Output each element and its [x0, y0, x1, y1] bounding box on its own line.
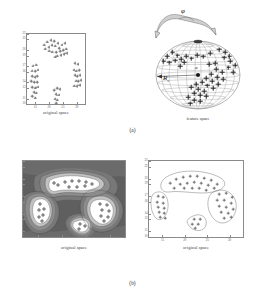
- data-point: [194, 227, 197, 230]
- data-point: [48, 49, 51, 52]
- data-point: [30, 69, 33, 72]
- sphere-marker: [192, 98, 197, 103]
- sphere-marker: [227, 54, 232, 59]
- x-tick-mark: [62, 235, 63, 237]
- x-tick-label: 20: [48, 106, 51, 109]
- y-tick-mark: [23, 214, 25, 215]
- data-point: [56, 54, 59, 57]
- sphere-marker: [189, 85, 194, 90]
- y-tick-mark: [27, 50, 29, 51]
- sphere-marker: [213, 61, 218, 66]
- data-point: [36, 68, 39, 71]
- x-tick-mark: [110, 235, 111, 237]
- y-tick-label: 16: [144, 200, 147, 203]
- data-point: [220, 211, 223, 214]
- panel-a: 1520253010111314161719202223 original sp…: [0, 0, 265, 148]
- radius-label: Rs: [163, 75, 169, 84]
- data-point: [223, 199, 226, 202]
- x-tick-label: 25: [206, 239, 209, 242]
- axis-label-b-contour: original space: [22, 245, 126, 250]
- phi-symbol: φ: [181, 7, 185, 15]
- data-point: [49, 39, 52, 42]
- y-tick-label: 11: [145, 230, 148, 233]
- y-tick-mark: [27, 72, 29, 73]
- data-point: [58, 47, 61, 50]
- sphere-marker: [208, 51, 213, 56]
- data-point: [163, 207, 166, 210]
- y-tick-label: 19: [144, 183, 147, 186]
- data-point: [162, 196, 165, 199]
- data-point: [78, 74, 81, 77]
- center-label: a: [195, 65, 198, 70]
- data-point: [231, 196, 234, 199]
- sphere-marker: [200, 80, 205, 85]
- sphere-marker: [198, 93, 203, 98]
- y-tick-mark: [149, 219, 151, 220]
- x-tick-label: 30: [75, 106, 78, 109]
- x-tick-mark: [63, 102, 64, 104]
- data-point: [179, 183, 182, 186]
- data-point: [162, 202, 165, 205]
- data-point: [47, 46, 50, 49]
- data-point: [36, 81, 39, 84]
- data-point: [32, 64, 35, 67]
- sphere-marker: [173, 58, 178, 63]
- sphere-marker: [186, 95, 191, 100]
- x-tick-mark: [86, 235, 87, 237]
- sphere-marker: [201, 54, 206, 59]
- data-point: [191, 187, 194, 190]
- data-point: [164, 217, 167, 220]
- plot-a-feature-space: Rs a: [150, 34, 246, 114]
- data-point: [197, 223, 200, 226]
- cluster-marker-layer: [149, 161, 243, 237]
- sphere-marker: [215, 75, 220, 80]
- data-point: [225, 206, 228, 209]
- sphere-marker: [170, 50, 175, 55]
- data-point: [163, 212, 166, 215]
- sphere-marker: [165, 54, 170, 59]
- data-point: [51, 50, 54, 53]
- y-tick-label: 22: [144, 165, 147, 168]
- data-point: [225, 192, 228, 195]
- data-point: [210, 179, 213, 182]
- y-tick-mark: [23, 179, 25, 180]
- contour-graphic: [23, 161, 126, 238]
- sphere-marker: [194, 82, 199, 87]
- sphere-marker: [189, 56, 194, 61]
- y-tick-mark: [149, 196, 151, 197]
- y-tick-label: 17: [144, 195, 147, 198]
- y-tick-mark: [27, 104, 29, 105]
- data-point: [79, 79, 82, 82]
- data-point: [193, 218, 196, 221]
- x-tick-label: 30: [228, 239, 231, 242]
- sphere-marker: [216, 82, 221, 87]
- data-point: [216, 199, 219, 202]
- y-tick-mark: [23, 196, 25, 197]
- data-point: [65, 52, 68, 55]
- data-point: [57, 94, 60, 97]
- data-point: [169, 182, 172, 185]
- data-point: [186, 182, 189, 185]
- data-point: [191, 223, 194, 226]
- data-point: [65, 47, 68, 50]
- y-tick-label: 10: [22, 102, 25, 105]
- y-tick-label: 20: [22, 49, 25, 52]
- sphere-marker: [207, 62, 212, 67]
- y-tick-label: 14: [144, 212, 147, 215]
- data-point: [34, 96, 37, 99]
- y-tick-label: 19: [22, 54, 25, 57]
- x-tick-label: 25: [61, 106, 64, 109]
- y-tick-label: 13: [22, 86, 25, 89]
- data-point: [203, 177, 206, 180]
- data-point: [159, 216, 162, 219]
- x-tick-mark: [49, 102, 50, 104]
- y-tick-label: 17: [22, 65, 25, 68]
- data-point: [205, 189, 208, 192]
- caption-a-feature-space: feature space: [150, 116, 246, 121]
- sphere-marker: [210, 79, 215, 84]
- data-point: [46, 40, 49, 43]
- data-point: [56, 98, 59, 101]
- data-point: [59, 88, 62, 91]
- data-point: [207, 184, 210, 187]
- data-point: [189, 175, 192, 178]
